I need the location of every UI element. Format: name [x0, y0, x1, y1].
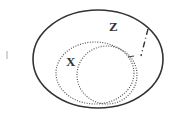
outer-set-z	[33, 10, 163, 108]
label-x: X	[66, 55, 75, 68]
label-z: Z	[109, 20, 118, 33]
inner-set-x	[56, 42, 134, 104]
venn-diagram	[0, 0, 172, 118]
inner-set-y	[77, 46, 137, 104]
dashed-connector	[141, 29, 148, 56]
pointer-mark	[128, 56, 134, 57]
